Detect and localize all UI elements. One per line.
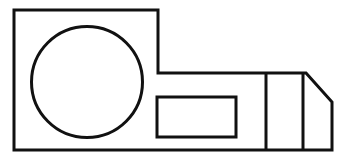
drawing-svg-root: [0, 0, 345, 164]
canvas-background: [0, 0, 345, 164]
technical-drawing-canvas: [0, 0, 345, 164]
